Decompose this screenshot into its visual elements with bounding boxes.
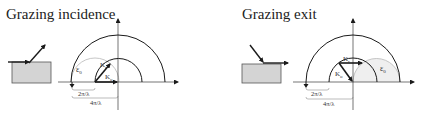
label-2pi-over-lambda: 2π/λ <box>78 90 90 97</box>
label-2pi-over-lambda: 2π/λ <box>311 90 323 97</box>
k-r-label: Kr <box>343 55 350 64</box>
exit-beam-arrow <box>29 45 45 63</box>
reciprocal-space-diagrams: ε0 Kr Ko 2π/λ 4π/λ Kr Ko ε0 <box>0 0 424 116</box>
sample-block <box>242 64 281 83</box>
k-o-label: Ko <box>335 70 343 79</box>
brace-4pi-lambda <box>306 97 353 99</box>
grazing-incidence-panel: ε0 Kr Ko 2π/λ 4π/λ <box>8 19 178 110</box>
incident-beam-arrow <box>250 45 263 62</box>
epsilon-label: ε0 <box>76 65 82 75</box>
k-o-label: Ko <box>105 73 113 82</box>
label-4pi-over-lambda: 4π/λ <box>90 99 102 106</box>
grazing-exit-panel: Kr Ko ε0 2π/λ 4π/λ <box>242 19 414 110</box>
origin-arrow-down <box>304 84 309 88</box>
label-4pi-over-lambda: 4π/λ <box>323 100 335 107</box>
sample-block <box>12 62 51 83</box>
origin-arrow-down <box>70 84 75 88</box>
